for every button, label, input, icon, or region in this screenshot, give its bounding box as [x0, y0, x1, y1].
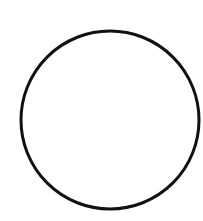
background — [0, 0, 203, 221]
diagram-canvas — [0, 0, 203, 221]
